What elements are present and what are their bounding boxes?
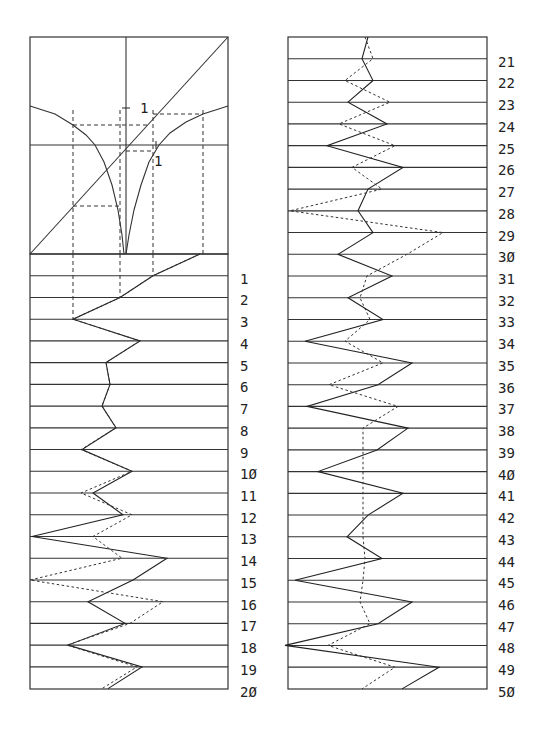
iteration-label: 13 [240,531,257,547]
right-row-lines [288,59,487,667]
iteration-label: 45 [498,575,515,591]
left-row-lines [30,276,228,667]
iteration-label: 36 [498,380,515,396]
iteration-label: 23 [498,97,515,113]
iteration-label: 21 [498,54,515,70]
iteration-label: 49 [498,662,515,678]
iteration-label: 34 [498,336,515,352]
figure-canvas: 1 1 1234567891Ø1112131415161718192Ø 2122… [0,0,535,735]
iteration-label: 26 [498,162,515,178]
iteration-label: 2 [240,292,248,308]
iteration-label: 32 [498,293,515,309]
iteration-label: 22 [498,75,515,91]
iteration-label: 18 [240,640,257,656]
x-tick-label: 1 [154,153,162,169]
right-time-series-panel: 2122232425262728293Ø3132333435363738394Ø… [285,37,515,700]
iteration-label: 27 [498,184,515,200]
iteration-label: 7 [240,401,248,417]
iteration-label: 37 [498,401,515,417]
map-panel: 1 1 [30,37,228,254]
iteration-label: 5 [240,358,248,374]
iteration-label: 15 [240,575,257,591]
iteration-label: 42 [498,510,515,526]
iteration-label: 4 [240,336,248,352]
y-tick-label: 1 [140,100,148,116]
iteration-label: 41 [498,488,515,504]
iteration-label: 46 [498,597,515,613]
iteration-label: 39 [498,445,515,461]
iteration-label: 29 [498,228,515,244]
iteration-label: 38 [498,423,515,439]
iteration-label: 19 [240,662,257,678]
iteration-label: 1Ø [240,466,257,482]
left-row-labels: 1234567891Ø1112131415161718192Ø [240,271,257,700]
iteration-label: 28 [498,206,515,222]
iteration-label: 25 [498,141,515,157]
iteration-label: 33 [498,314,515,330]
iteration-label: 14 [240,553,257,569]
iteration-label: 12 [240,510,257,526]
iteration-label: 9 [240,445,248,461]
right-row-labels: 2122232425262728293Ø3132333435363738394Ø… [498,54,515,700]
left-time-series-panel: 1234567891Ø1112131415161718192Ø [30,254,257,700]
iteration-label: 16 [240,597,257,613]
iteration-label: 24 [498,119,515,135]
iteration-label: 6 [240,379,248,395]
iteration-label: 35 [498,358,515,374]
iteration-label: 44 [498,554,515,570]
iteration-label: 43 [498,532,515,548]
iteration-label: 47 [498,619,515,635]
iteration-label: 3 [240,314,248,330]
iteration-label: 11 [240,488,257,504]
iteration-label: 4Ø [498,467,515,483]
map-branch-left-curve [30,106,124,254]
iteration-label: 3Ø [498,249,515,265]
iteration-label: 2Ø [240,684,257,700]
figure: 1 1 1234567891Ø1112131415161718192Ø 2122… [0,0,535,735]
iteration-label: 5Ø [498,684,515,700]
map-branch-right-curve [126,106,228,254]
iteration-label: 8 [240,423,248,439]
iteration-label: 1 [240,271,248,287]
iteration-label: 48 [498,640,515,656]
iteration-label: 31 [498,271,515,287]
iteration-label: 17 [240,618,257,634]
